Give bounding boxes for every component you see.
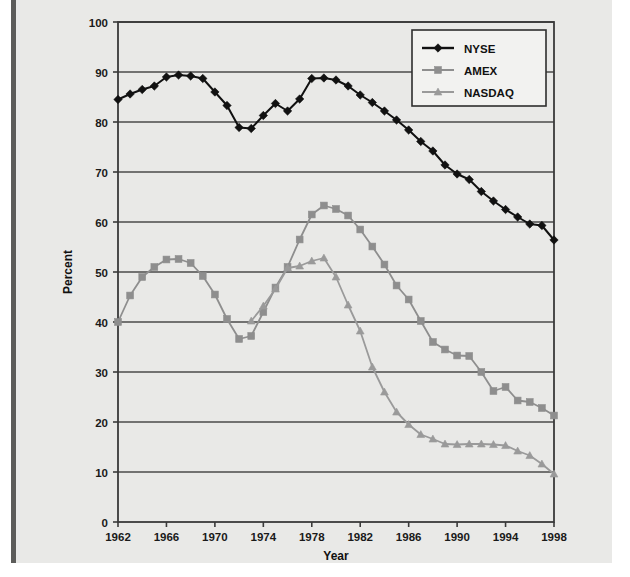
data-point-square	[163, 256, 170, 263]
data-point-square	[435, 67, 442, 74]
series-line-amex	[118, 206, 554, 416]
data-point-diamond	[114, 95, 122, 103]
data-point-square	[357, 226, 364, 233]
data-point-diamond	[320, 74, 328, 82]
y-tick-label: 0	[102, 517, 108, 529]
data-point-square	[478, 369, 485, 376]
legend: NYSEAMEXNASDAQ	[412, 30, 546, 106]
x-tick-label: 1966	[154, 531, 180, 543]
y-tick-label: 60	[95, 217, 108, 229]
data-point-square	[514, 397, 521, 404]
data-point-square	[345, 212, 352, 219]
data-point-square	[417, 318, 424, 325]
y-tick-label: 10	[95, 467, 108, 479]
data-point-square	[381, 261, 388, 268]
series-nasdaq	[247, 254, 558, 477]
data-point-square	[551, 412, 558, 419]
legend-label-nasdaq: NASDAQ	[464, 87, 514, 99]
y-tick-label: 70	[95, 167, 108, 179]
page-edge-bottom	[0, 563, 630, 577]
data-point-square	[369, 243, 376, 250]
page-edge-left	[0, 0, 11, 577]
data-point-square	[236, 336, 243, 343]
x-tick-label: 1982	[347, 531, 373, 543]
data-point-square	[224, 316, 231, 323]
y-axis-title: Percent	[61, 250, 75, 294]
data-point-square	[296, 236, 303, 243]
data-point-square	[187, 260, 194, 267]
x-tick-label: 1994	[493, 531, 519, 543]
x-tick-label: 1978	[299, 531, 325, 543]
data-point-square	[127, 292, 134, 299]
data-point-square	[538, 405, 545, 412]
y-tick-label: 80	[95, 117, 108, 129]
data-point-triangle	[356, 327, 364, 334]
x-tick-label: 1962	[105, 531, 131, 543]
y-tick-label: 40	[95, 317, 108, 329]
x-tick-label: 1970	[202, 531, 228, 543]
data-point-square	[308, 211, 315, 218]
data-point-diamond	[308, 74, 316, 82]
x-tick-label: 1990	[444, 531, 470, 543]
data-point-triangle	[381, 388, 389, 395]
data-point-square	[175, 256, 182, 263]
y-tick-label: 20	[95, 417, 108, 429]
data-point-square	[199, 273, 206, 280]
data-point-square	[151, 264, 158, 271]
data-point-square	[454, 352, 461, 359]
scanned-page: 0102030405060708090100196219661970197419…	[0, 0, 630, 577]
legend-label-amex: AMEX	[464, 65, 498, 77]
data-point-diamond	[235, 123, 243, 131]
series-amex	[115, 202, 558, 419]
data-point-square	[320, 202, 327, 209]
data-point-square	[502, 384, 509, 391]
data-point-square	[248, 333, 255, 340]
x-tick-label: 1998	[541, 531, 567, 543]
data-point-square	[526, 399, 533, 406]
y-tick-label: 30	[95, 367, 108, 379]
data-point-diamond	[526, 220, 534, 228]
data-point-square	[442, 346, 449, 353]
line-chart: 0102030405060708090100196219661970197419…	[16, 0, 612, 563]
data-point-square	[466, 353, 473, 360]
data-point-triangle	[344, 301, 352, 308]
y-tick-label: 50	[95, 267, 108, 279]
data-point-triangle	[320, 254, 328, 261]
data-point-square	[490, 388, 497, 395]
data-point-square	[333, 206, 340, 213]
x-tick-label: 1974	[251, 531, 277, 543]
x-tick-label: 1986	[396, 531, 422, 543]
chart-figure: 0102030405060708090100196219661970197419…	[16, 0, 612, 563]
data-point-diamond	[332, 76, 340, 84]
data-point-square	[429, 339, 436, 346]
data-point-square	[393, 282, 400, 289]
page-edge-right	[612, 0, 630, 577]
data-point-square	[211, 291, 218, 298]
series-line-nasdaq	[251, 258, 554, 474]
y-tick-label: 100	[89, 17, 108, 29]
x-axis-title: Year	[323, 549, 349, 563]
y-tick-label: 90	[95, 67, 108, 79]
data-point-square	[405, 296, 412, 303]
data-point-triangle	[368, 363, 376, 370]
data-point-diamond	[126, 90, 134, 98]
data-point-diamond	[186, 72, 194, 80]
data-point-square	[139, 274, 146, 281]
data-point-square	[115, 319, 122, 326]
data-point-diamond	[138, 85, 146, 93]
legend-label-nyse: NYSE	[464, 43, 496, 55]
